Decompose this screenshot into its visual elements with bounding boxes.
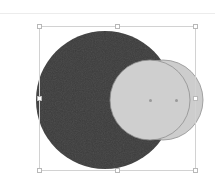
- shape-layer: [0, 14, 215, 185]
- app-window: [0, 0, 215, 185]
- center-marker-back-circle: [175, 99, 178, 102]
- drawing-canvas[interactable]: [0, 14, 215, 185]
- center-marker-front-circle: [149, 99, 152, 102]
